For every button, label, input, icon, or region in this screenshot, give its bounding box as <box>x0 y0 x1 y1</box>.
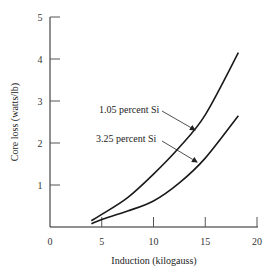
x-ticks: 05101520 <box>48 217 263 247</box>
annotation-arrow-icon <box>162 111 195 130</box>
series-annotation-label: 3.25 percent Si <box>96 133 156 144</box>
y-tick-label: 4 <box>38 54 43 65</box>
y-tick-label: 1 <box>38 180 43 191</box>
x-tick-label: 0 <box>48 236 53 247</box>
x-tick-label: 15 <box>200 236 210 247</box>
x-tick-label: 5 <box>99 236 104 247</box>
x-tick-label: 20 <box>252 236 262 247</box>
core-loss-chart: 12345 05101520 1.05 percent Si3.25 perce… <box>0 0 278 276</box>
annotation-arrow-icon <box>162 141 197 162</box>
y-tick-label: 2 <box>38 138 43 149</box>
y-tick-label: 3 <box>38 96 43 107</box>
y-tick-label: 5 <box>38 12 43 23</box>
annotations: 1.05 percent Si3.25 percent Si <box>96 104 197 162</box>
x-axis-title: Induction (kilogauss) <box>111 255 196 267</box>
x-tick-label: 10 <box>149 236 159 247</box>
y-ticks: 12345 <box>38 12 61 191</box>
series-annotation-label: 1.05 percent Si <box>99 104 159 115</box>
y-axis-title: Core loss (watts/lb) <box>9 83 21 161</box>
